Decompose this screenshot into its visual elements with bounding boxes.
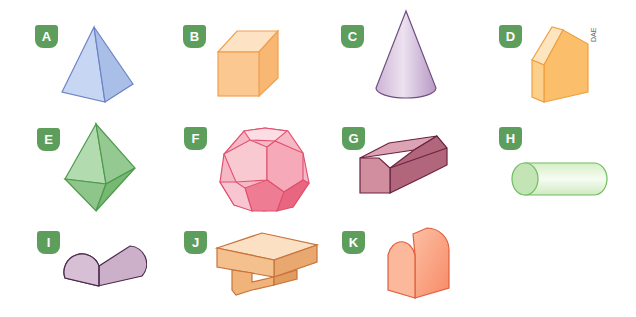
arch-prism-shape <box>385 222 460 302</box>
label-badge-e: E <box>37 128 60 151</box>
hexagonal-prism-shape <box>357 133 452 203</box>
label-badge-h: H <box>499 127 522 150</box>
label-badge-c: C <box>341 25 364 48</box>
label-badge-f: F <box>184 127 207 150</box>
label-badge-j: J <box>184 231 207 254</box>
label-badge-b: B <box>183 25 206 48</box>
half-cylinder-shape <box>62 236 147 288</box>
t-prism-shape <box>214 230 324 300</box>
cylinder-shape <box>508 160 610 198</box>
cone-shape <box>372 8 442 103</box>
octahedron-shape <box>62 120 142 215</box>
cube-shape <box>215 28 295 100</box>
label-badge-i: I <box>37 231 60 254</box>
label-badge-k: K <box>342 231 365 254</box>
dodecahedron-shape <box>217 125 312 215</box>
label-badge-d: D <box>499 25 522 48</box>
pentagonal-prism-shape <box>530 22 600 107</box>
pyramid-shape <box>55 22 145 107</box>
